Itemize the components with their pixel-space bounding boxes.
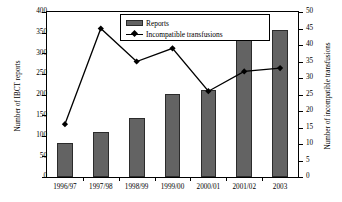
chart-container: Number of IBCT reports Number of incompa… bbox=[0, 0, 342, 202]
line-marker-diamond-icon bbox=[241, 68, 247, 74]
legend-label-incompatible-transfusions: Incompatible transfusions bbox=[146, 30, 223, 39]
line-marker-diamond-icon bbox=[62, 121, 68, 127]
legend-label-reports: Reports bbox=[146, 19, 169, 28]
legend-entry-incompatible-transfusions: Incompatible transfusions bbox=[126, 29, 223, 39]
chart-legend: Reports Incompatible transfusions bbox=[120, 14, 270, 41]
legend-line-diamond-icon bbox=[126, 31, 143, 38]
legend-bar-swatch-icon bbox=[126, 20, 143, 26]
legend-entry-reports: Reports bbox=[126, 18, 169, 28]
line-marker-diamond-icon bbox=[277, 65, 283, 71]
